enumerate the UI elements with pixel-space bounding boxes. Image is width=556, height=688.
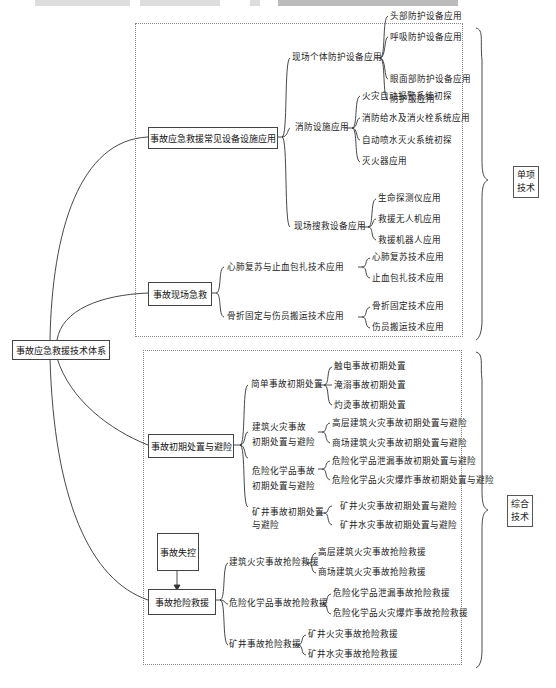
section-initial-response-node: 事故初期处置与避险 [148, 434, 234, 458]
leaf-node: 商场建筑火灾事故初期处置与避险 [332, 438, 467, 449]
leaf-node: 眼面部防护设备应用 [390, 74, 471, 85]
section-equipment-node: 事故应急救援常见设备设施应用 [148, 127, 278, 149]
leaf-node: 矿井水灾事故抢险救援 [308, 649, 398, 660]
branch-node: 现场个体防护设备应用 [292, 52, 382, 63]
root-node: 事故应急救援技术体系 [12, 340, 110, 360]
leaf-node: 商场建筑火灾事故抢险救援 [318, 567, 426, 578]
leaf-node: 矿井火灾事故抢险救援 [308, 629, 398, 640]
leaf-node: 高层建筑火灾事故抢险救援 [318, 547, 426, 558]
branch-node: 心肺复苏与止血包扎技术应用 [227, 262, 344, 273]
leaf-node: 心肺复苏技术应用 [372, 252, 444, 263]
section-first-aid-node: 事故现场急救 [148, 282, 212, 306]
leaf-node: 危险化学品火灾爆炸事故抢险救援 [333, 608, 468, 619]
branch-node-line2: 初期处置与避险 [252, 481, 315, 492]
branch-node-line2: 初期处置与避险 [252, 437, 315, 448]
branch-node: 消防设施应用 [295, 122, 349, 133]
leaf-node: 高层建筑火灾事故初期处置与避险 [332, 418, 467, 429]
section-rescue-node: 事故抢险救援 [148, 589, 216, 615]
branch-node-line1: 建筑火灾事故 [252, 422, 306, 433]
leaf-node: 救援机器人应用 [378, 235, 441, 246]
leaf-node: 火灾自动报警系统初探 [362, 91, 452, 102]
leaf-node: 危险化学品泄漏事故抢险救援 [333, 588, 450, 599]
single-tech-label-line1: 单项 [517, 169, 535, 182]
leaf-node: 矿井火灾事故初期处置与避险 [340, 501, 457, 512]
leaf-node: 自动喷水灭火系统初探 [362, 135, 452, 146]
branch-node: 危险化学品事故抢险救援 [229, 598, 328, 609]
leaf-node: 灼烫事故初期处置 [334, 400, 406, 411]
leaf-node: 救援无人机应用 [378, 214, 441, 225]
leaf-node: 矿井水灾事故初期处置与避险 [340, 520, 457, 531]
branch-node: 现场搜救设备应用 [294, 221, 366, 232]
combined-tech-label-line2: 技术 [511, 511, 529, 524]
leaf-node: 危险化学品火灾爆炸事故初期处置与避险 [332, 475, 494, 486]
branch-node: 简单事故初期处置 [251, 379, 323, 390]
trigger-node-accident-out-of-control: 事故失控 [157, 533, 199, 571]
branch-node: 建筑火灾事故抢险救援 [229, 557, 319, 568]
combined-tech-label: 综合 技术 [507, 495, 533, 527]
leaf-node: 骨折固定技术应用 [372, 301, 444, 312]
leaf-node: 伤员搬运技术应用 [372, 322, 444, 333]
combined-tech-label-line1: 综合 [511, 498, 529, 511]
single-tech-label: 单项 技术 [513, 166, 539, 198]
leaf-node: 生命探测仪应用 [378, 193, 441, 204]
leaf-node: 危险化学品泄漏事故初期处置与避险 [332, 456, 476, 467]
branch-node: 矿井事故抢险救援 [229, 639, 301, 650]
branch-node-line2: 与避险 [252, 520, 279, 531]
branch-node-line1: 危险化学品事故 [252, 466, 315, 477]
single-tech-label-line2: 技术 [517, 182, 535, 195]
leaf-node: 消防给水及消火栓系统应用 [362, 113, 470, 124]
branch-node-line1: 矿井事故初期处置 [252, 507, 324, 518]
leaf-node: 止血包扎技术应用 [372, 273, 444, 284]
branch-node: 骨折固定与伤员搬运技术应用 [227, 311, 344, 322]
leaf-node: 淹溺事故初期处置 [334, 380, 406, 391]
leaf-node: 灭火器应用 [362, 156, 407, 167]
leaf-node: 触电事故初期处置 [334, 361, 406, 372]
leaf-node: 头部防护设备应用 [390, 11, 462, 22]
leaf-node: 呼吸防护设备应用 [390, 32, 462, 43]
